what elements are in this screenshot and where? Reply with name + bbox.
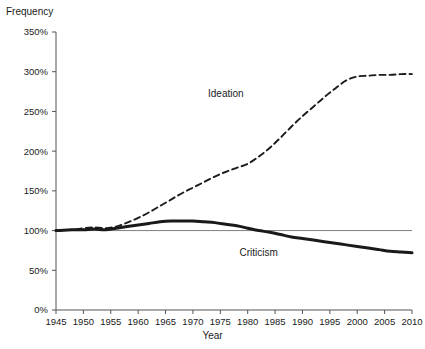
x-tick-label: 1995 <box>319 316 340 327</box>
y-tick-label: 0% <box>34 304 48 315</box>
x-tick-label: 1975 <box>210 316 231 327</box>
axis-lines <box>56 32 412 310</box>
data-series <box>56 74 412 253</box>
x-tick-label: 2005 <box>374 316 395 327</box>
y-tick-label: 250% <box>24 106 49 117</box>
series-label-criticism: Criticism <box>239 247 277 258</box>
x-tick-label: 1970 <box>182 316 203 327</box>
y-tick-label: 50% <box>29 265 49 276</box>
series-label-ideation: Ideation <box>208 88 244 99</box>
y-tick-label: 300% <box>24 66 49 77</box>
x-axis-ticks: 1945195019551960196519701975198019851990… <box>45 310 422 327</box>
x-tick-label: 1950 <box>73 316 94 327</box>
x-tick-label: 2000 <box>347 316 368 327</box>
x-tick-label: 1990 <box>292 316 313 327</box>
x-tick-label: 2010 <box>401 316 422 327</box>
frequency-chart: Frequency Year 0%50%100%150%200%250%300%… <box>0 0 425 349</box>
y-tick-label: 200% <box>24 146 49 157</box>
x-tick-label: 1955 <box>100 316 121 327</box>
x-tick-label: 1960 <box>128 316 149 327</box>
x-tick-label: 1965 <box>155 316 176 327</box>
x-tick-label: 1985 <box>265 316 286 327</box>
series-line-criticism <box>56 221 412 253</box>
y-tick-label: 100% <box>24 225 49 236</box>
plot-area: 0%50%100%150%200%250%300%350% 1945195019… <box>0 0 425 349</box>
y-tick-label: 150% <box>24 185 49 196</box>
y-tick-label: 350% <box>24 26 49 37</box>
x-tick-label: 1980 <box>237 316 258 327</box>
x-tick-label: 1945 <box>45 316 66 327</box>
y-axis-ticks: 0%50%100%150%200%250%300%350% <box>24 26 56 315</box>
